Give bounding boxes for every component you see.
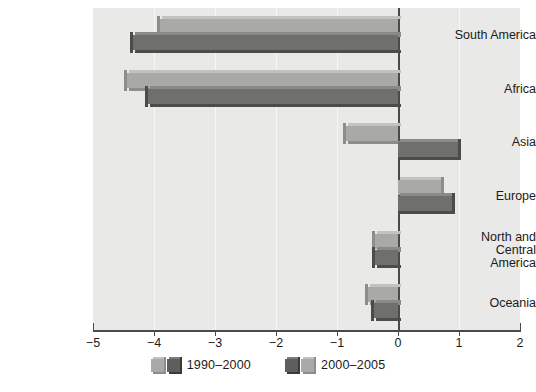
y-axis-label: Africa (448, 82, 536, 95)
bar (374, 303, 398, 318)
bar (398, 142, 458, 157)
gridline (337, 8, 338, 330)
legend-entry-2000-2005: 2000–2005 (285, 358, 385, 372)
x-tick-label: −2 (269, 336, 284, 350)
gridline (276, 8, 277, 330)
y-axis-label: Europe (448, 189, 536, 202)
bar (398, 196, 452, 211)
plot-area (93, 8, 520, 330)
y-axis-label: Asia (448, 136, 536, 149)
x-tick (93, 323, 94, 332)
legend-swatch-dark-icon (167, 359, 180, 372)
x-tick-label: −1 (330, 336, 345, 350)
legend-label-1990-2000: 1990–2000 (187, 358, 251, 372)
x-tick-label: 0 (394, 336, 401, 350)
chart-root: South AmericaAfricaAsiaEuropeNorth and C… (0, 0, 536, 392)
zero-line (398, 8, 400, 330)
bar (346, 126, 398, 141)
x-tick-label: −3 (208, 336, 223, 350)
bar (375, 250, 398, 265)
legend-entry-1990-2000: 1990–2000 (151, 358, 251, 372)
legend-swatch-dark-icon (285, 359, 298, 372)
bar (133, 35, 398, 50)
chart-legend: 1990–2000 2000–2005 (0, 358, 536, 372)
x-tick-label: −4 (147, 336, 162, 350)
legend-swatch-light-icon (151, 359, 164, 372)
gridline (215, 8, 216, 330)
legend-swatch-light-icon (301, 359, 314, 372)
y-axis-label: North and Central America (448, 230, 536, 269)
gridline (154, 8, 155, 330)
legend-swatch-pair-2 (285, 359, 314, 372)
bar (148, 89, 398, 104)
legend-swatch-pair-1 (151, 359, 180, 372)
x-axis-line (93, 330, 521, 332)
y-axis-label: South America (448, 28, 536, 41)
y-axis-label: Oceania (448, 297, 536, 310)
x-tick (520, 323, 521, 332)
legend-label-2000-2005: 2000–2005 (321, 358, 385, 372)
x-tick-label: 2 (516, 336, 523, 350)
x-tick-label: −5 (86, 336, 101, 350)
gridline (459, 8, 460, 330)
x-tick-label: 1 (455, 336, 462, 350)
